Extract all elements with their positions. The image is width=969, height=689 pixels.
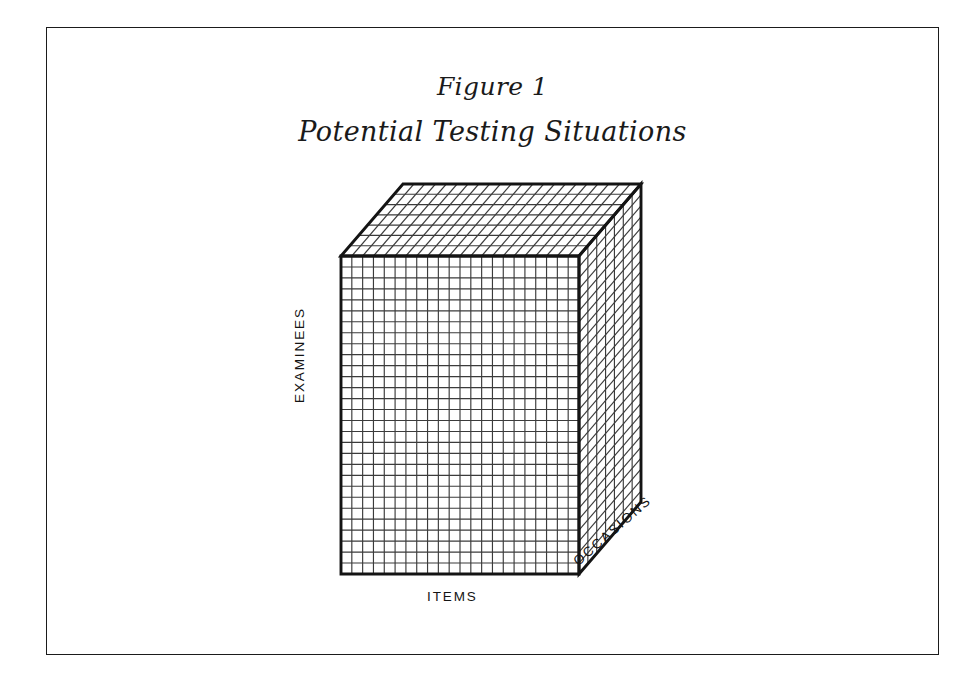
cube-svg (47, 28, 940, 656)
cube-diagram (47, 28, 940, 656)
figure-frame: Figure 1 Potential Testing Situations (46, 27, 939, 655)
axis-label-items: ITEMS (427, 590, 478, 604)
axis-label-examinees: EXAMINEES (293, 307, 307, 403)
